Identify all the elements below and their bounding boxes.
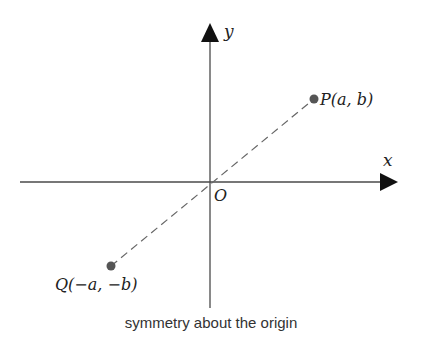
point-q-label: Q(−a, −b) (55, 275, 137, 294)
coordinate-diagram: y x O P(a, b) Q(−a, −b) (0, 0, 422, 350)
y-axis-label: y (223, 21, 234, 41)
diagram-caption: symmetry about the origin (0, 314, 422, 331)
x-axis-arrow-icon (380, 173, 398, 191)
y-axis-arrow-icon (201, 23, 219, 42)
x-axis-label: x (383, 150, 393, 170)
point-q (107, 262, 116, 271)
point-p-label: P(a, b) (319, 90, 373, 109)
origin-label: O (214, 186, 227, 205)
point-p (310, 95, 319, 104)
